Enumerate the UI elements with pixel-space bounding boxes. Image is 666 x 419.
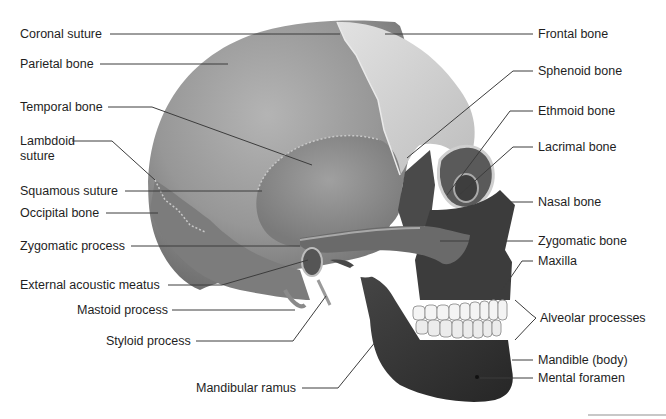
label-zygomatic-bone: Zygomatic bone xyxy=(538,234,627,248)
label-mandible-body: Mandible (body) xyxy=(538,353,628,367)
lower-teeth xyxy=(416,320,501,338)
label-styloid-process: Styloid process xyxy=(106,334,191,348)
label-maxilla: Maxilla xyxy=(538,254,577,268)
label-external-acoustic-meatus: External acoustic meatus xyxy=(20,278,160,292)
label-lambdoid-suture-line1: Lambdoid xyxy=(20,134,75,148)
external-acoustic-meatus-shape xyxy=(302,248,322,276)
label-occipital-bone: Occipital bone xyxy=(20,206,99,220)
label-frontal-bone: Frontal bone xyxy=(538,27,608,41)
label-mastoid-process: Mastoid process xyxy=(77,303,168,317)
label-temporal-bone: Temporal bone xyxy=(20,100,103,114)
label-lacrimal-bone: Lacrimal bone xyxy=(538,140,617,154)
label-squamous-suture: Squamous suture xyxy=(20,184,118,198)
label-nasal-bone: Nasal bone xyxy=(538,195,601,209)
label-coronal-suture: Coronal suture xyxy=(20,27,102,41)
divider xyxy=(588,414,666,416)
upper-teeth xyxy=(413,300,507,320)
label-parietal-bone: Parietal bone xyxy=(20,57,94,71)
label-lambdoid-suture-line2: suture xyxy=(20,149,55,163)
label-ethmoid-bone: Ethmoid bone xyxy=(538,104,615,118)
skull-diagram: Coronal suture Parietal bone Temporal bo… xyxy=(0,0,666,419)
label-sphenoid-bone: Sphenoid bone xyxy=(538,64,622,78)
label-mental-foramen: Mental foramen xyxy=(538,371,625,385)
label-alveolar-processes: Alveolar processes xyxy=(540,311,646,325)
label-mandibular-ramus: Mandibular ramus xyxy=(196,381,296,395)
label-zygomatic-process: Zygomatic process xyxy=(20,239,125,253)
